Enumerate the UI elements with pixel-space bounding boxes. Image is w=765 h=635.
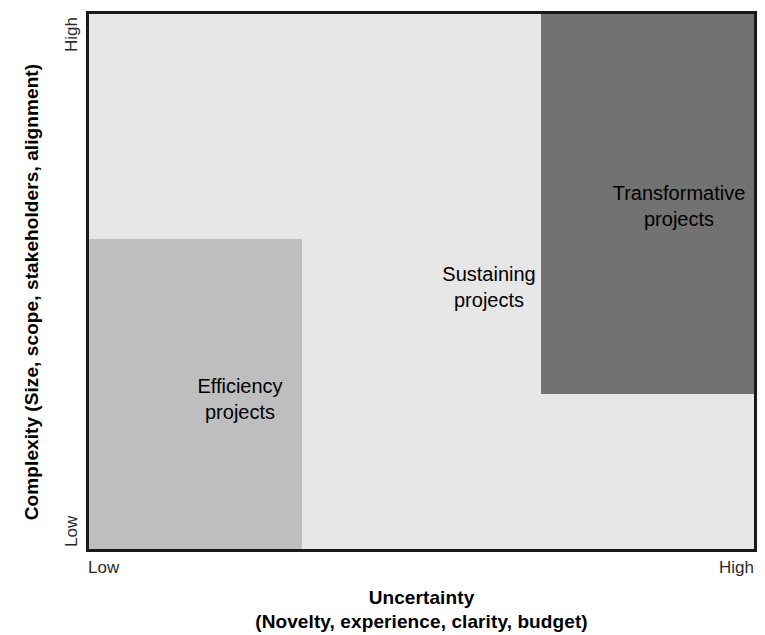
project-matrix-figure: Complexity (Size, scope, stakeholders, a… [0,0,765,635]
x-axis-title: Uncertainty (Novelty, experience, clarit… [86,586,757,634]
region-label-transformative-line1: Transformative [564,181,757,207]
region-label-efficiency-line2: projects [145,400,335,426]
x-axis-tick-low: Low [88,558,119,578]
region-label-efficiency: Efficiency projects [145,374,335,425]
plot-area: Efficiency projects Sustaining projects … [86,11,757,552]
y-axis-title-main: Complexity [21,417,43,520]
x-axis-title-main: Uncertainty [86,586,757,610]
region-label-sustaining-line1: Sustaining [394,262,584,288]
region-label-efficiency-line1: Efficiency [145,374,335,400]
x-axis-tick-high: High [719,558,754,578]
region-label-transformative-line2: projects [564,207,757,233]
y-axis-title: Complexity (Size, scope, stakeholders, a… [10,12,54,572]
y-axis-tick-low: Low [62,516,82,547]
region-label-sustaining-line2: projects [394,288,584,314]
region-label-sustaining: Sustaining projects [394,262,584,313]
y-axis-tick-high: High [62,17,82,52]
region-label-transformative: Transformative projects [564,181,757,232]
y-axis-title-sub: (Size, scope, stakeholders, alignment) [21,64,43,412]
x-axis-title-sub: (Novelty, experience, clarity, budget) [86,610,757,634]
